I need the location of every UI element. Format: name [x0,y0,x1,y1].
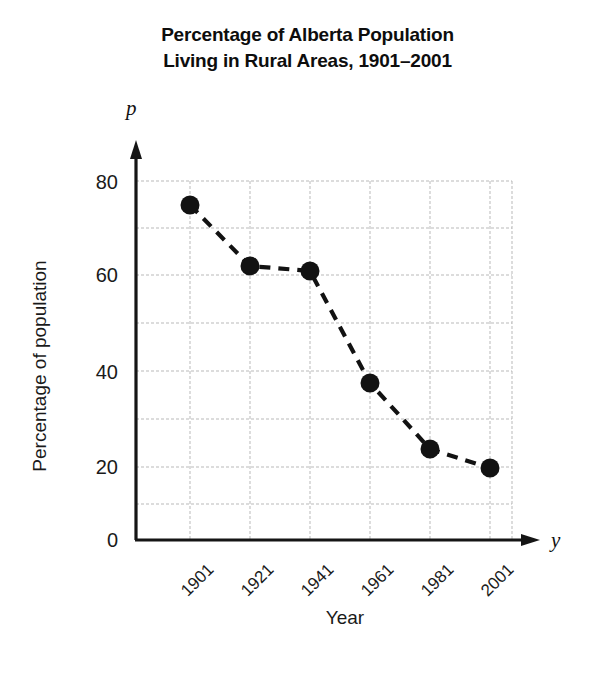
data-points [181,196,500,478]
data-point-1901 [181,196,200,215]
data-point-1941 [301,262,320,281]
plot-area [0,0,615,683]
data-line [190,205,490,468]
data-point-1921 [241,257,260,276]
data-point-1961 [361,374,380,393]
chart-figure: Percentage of Alberta Population Living … [0,0,615,683]
data-point-2001 [481,459,500,478]
data-point-1981 [421,440,440,459]
gridlines-vertical [190,181,512,540]
